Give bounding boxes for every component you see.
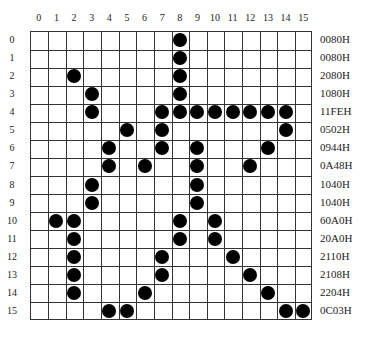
- row-label: 11: [0, 233, 24, 244]
- filled-dot: [296, 304, 310, 318]
- filled-dot: [102, 141, 116, 155]
- row-label: 12: [0, 251, 24, 262]
- row-label: 14: [0, 287, 24, 298]
- filled-dot: [155, 250, 169, 264]
- grid-line: [31, 302, 311, 303]
- filled-dot: [173, 33, 187, 47]
- column-label: 3: [83, 12, 101, 23]
- row-label: 10: [0, 215, 24, 226]
- filled-dot: [243, 268, 257, 282]
- filled-dot: [102, 304, 116, 318]
- column-label: 11: [224, 12, 242, 23]
- hex-value: 2110H: [320, 250, 350, 262]
- filled-dot: [173, 105, 187, 119]
- row-label: 15: [0, 305, 24, 316]
- filled-dot: [173, 214, 187, 228]
- column-label: 10: [206, 12, 224, 23]
- filled-dot: [190, 159, 204, 173]
- filled-dot: [85, 196, 99, 210]
- filled-dot: [120, 304, 134, 318]
- filled-dot: [67, 286, 81, 300]
- filled-dot: [138, 286, 152, 300]
- filled-dot: [155, 268, 169, 282]
- hex-value: 0C03H: [320, 304, 352, 316]
- dot-matrix-grid: [30, 31, 312, 320]
- row-label: 9: [0, 197, 24, 208]
- grid-line: [260, 32, 261, 319]
- filled-dot: [208, 232, 222, 246]
- grid-line: [31, 194, 311, 195]
- row-label: 5: [0, 124, 24, 135]
- column-label: 13: [259, 12, 277, 23]
- filled-dot: [67, 214, 81, 228]
- filled-dot: [67, 232, 81, 246]
- column-label: 2: [65, 12, 83, 23]
- column-label: 1: [48, 12, 66, 23]
- filled-dot: [243, 105, 257, 119]
- filled-dot: [85, 105, 99, 119]
- filled-dot: [138, 159, 152, 173]
- filled-dot: [49, 214, 63, 228]
- row-label: 13: [0, 269, 24, 280]
- filled-dot: [85, 178, 99, 192]
- filled-dot: [155, 123, 169, 137]
- column-label: 7: [153, 12, 171, 23]
- filled-dot: [190, 178, 204, 192]
- hex-value: 2204H: [320, 286, 350, 298]
- filled-dot: [208, 214, 222, 228]
- filled-dot: [226, 105, 240, 119]
- column-label: 8: [171, 12, 189, 23]
- filled-dot: [173, 69, 187, 83]
- hex-value: 0944H: [320, 141, 350, 153]
- column-label: 6: [136, 12, 154, 23]
- filled-dot: [190, 196, 204, 210]
- grid-line: [31, 176, 311, 177]
- grid-line: [207, 32, 208, 319]
- grid-line: [189, 32, 190, 319]
- row-label: 3: [0, 88, 24, 99]
- filled-dot: [279, 105, 293, 119]
- filled-dot: [173, 87, 187, 101]
- filled-dot: [155, 105, 169, 119]
- filled-dot: [155, 141, 169, 155]
- hex-value: 0080H: [320, 51, 350, 63]
- filled-dot: [190, 141, 204, 155]
- filled-dot: [208, 105, 222, 119]
- row-label: 8: [0, 179, 24, 190]
- filled-dot: [85, 87, 99, 101]
- hex-value: 1040H: [320, 196, 350, 208]
- filled-dot: [279, 123, 293, 137]
- hex-value: 1040H: [320, 178, 350, 190]
- row-label: 2: [0, 70, 24, 81]
- hex-value: 2108H: [320, 268, 350, 280]
- filled-dot: [102, 159, 116, 173]
- filled-dot: [67, 250, 81, 264]
- grid-line: [295, 32, 296, 319]
- filled-dot: [279, 304, 293, 318]
- hex-value: 0080H: [320, 33, 350, 45]
- grid-line: [277, 32, 278, 319]
- filled-dot: [67, 268, 81, 282]
- hex-value: 0A48H: [320, 159, 352, 171]
- filled-dot: [226, 250, 240, 264]
- filled-dot: [173, 51, 187, 65]
- hex-value: 60A0H: [320, 214, 352, 226]
- column-label: 5: [118, 12, 136, 23]
- column-label: 0: [30, 12, 48, 23]
- hex-value: 2080H: [320, 69, 350, 81]
- row-label: 1: [0, 52, 24, 63]
- column-label: 4: [101, 12, 119, 23]
- filled-dot: [261, 105, 275, 119]
- hex-value: 20A0H: [320, 232, 352, 244]
- filled-dot: [190, 105, 204, 119]
- column-label: 9: [189, 12, 207, 23]
- hex-value: 0502H: [320, 123, 350, 135]
- filled-dot: [120, 123, 134, 137]
- grid-line: [31, 212, 311, 213]
- grid-line: [224, 32, 225, 319]
- filled-dot: [67, 69, 81, 83]
- filled-dot: [261, 141, 275, 155]
- row-label: 0: [0, 34, 24, 45]
- column-label: 15: [294, 12, 312, 23]
- row-label: 7: [0, 160, 24, 171]
